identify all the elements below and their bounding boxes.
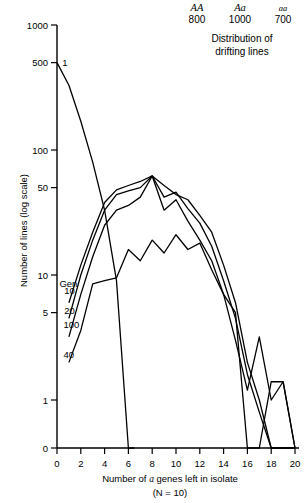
y-tick-label: 1: [43, 395, 48, 406]
series-label: Gen: [59, 278, 77, 289]
y-tick-label: 500: [32, 57, 48, 68]
x-tick-label: 20: [290, 458, 301, 469]
x-tick-label: 18: [266, 458, 277, 469]
series-label: 1: [62, 57, 67, 68]
x-tick-label: 6: [126, 458, 131, 469]
y-tick-label: 0: [43, 443, 48, 454]
series-label: 20: [64, 305, 75, 316]
figure: AA Aa aa 800 1000 700 Distribution of dr…: [0, 0, 307, 503]
x-tick-label: 0: [54, 458, 59, 469]
y-tick-label: 1000: [27, 20, 48, 31]
x-tick-label: 16: [242, 458, 253, 469]
x-tick-label: 14: [218, 458, 229, 469]
plot-area: 1000500100501051002468101214161820110201…: [0, 0, 307, 503]
x-tick-label: 4: [102, 458, 107, 469]
series-label: 100: [64, 319, 80, 330]
x-tick-label: 8: [150, 458, 155, 469]
series-line: [69, 176, 295, 448]
y-tick-label: 5: [43, 307, 48, 318]
x-tick-label: 2: [78, 458, 83, 469]
series-label: 40: [64, 349, 75, 360]
y-tick-label: 100: [32, 145, 48, 156]
x-tick-label: 10: [171, 458, 182, 469]
y-tick-label: 10: [37, 270, 48, 281]
series-line: [57, 63, 134, 448]
x-tick-label: 12: [195, 458, 206, 469]
y-tick-label: 50: [37, 182, 48, 193]
